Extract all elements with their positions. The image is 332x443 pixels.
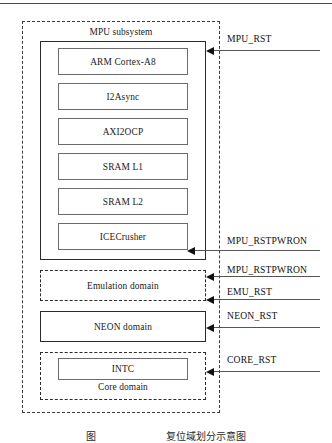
signal-arrowhead-neon-rst xyxy=(206,324,214,332)
module-sram-l1: SRAM L1 xyxy=(58,153,188,180)
signal-line-core-rst xyxy=(213,371,320,372)
signal-label-mpu-rstpwron-icecrusher: MPU_RSTPWRON xyxy=(227,235,307,246)
signal-label-neon-rst: NEON_RST xyxy=(227,310,278,321)
signal-arrowhead-core-rst xyxy=(206,368,214,376)
page-top-rule xyxy=(0,3,332,4)
neon-domain-label: NEON domain xyxy=(94,322,152,332)
module-axi2ocp: AXI2OCP xyxy=(58,118,188,145)
module-label: I2Async xyxy=(107,92,140,102)
signal-line-emu-rst xyxy=(213,299,320,300)
signal-label-mpu-rstpwron-emulation: MPU_RSTPWRON xyxy=(227,264,307,275)
signal-line-mpu-rst xyxy=(213,50,320,51)
emulation-domain-label: Emulation domain xyxy=(87,281,159,291)
module-label: INTC xyxy=(112,364,134,374)
mpu-subsystem-title: MPU subsystem xyxy=(22,28,220,37)
signal-line-mpu-rstpwron-icecrusher xyxy=(195,250,320,251)
module-icecrusher: ICECrusher xyxy=(58,223,188,250)
emulation-domain-box: Emulation domain xyxy=(40,270,206,301)
signal-arrowhead-mpu-rst xyxy=(206,47,214,55)
module-sram-l2: SRAM L2 xyxy=(58,188,188,215)
signal-label-emu-rst: EMU_RST xyxy=(227,286,272,297)
signal-arrowhead-emu-rst xyxy=(206,296,214,304)
module-label: SRAM L2 xyxy=(103,197,143,207)
signal-line-mpu-rstpwron-emulation xyxy=(213,276,320,277)
figure-caption: 图 复位域划分示意图 xyxy=(0,428,332,443)
core-domain-label: Core domain xyxy=(40,383,206,392)
module-arm-cortex-a8: ARM Cortex-A8 xyxy=(58,48,188,75)
module-i2async: I2Async xyxy=(58,83,188,110)
signal-arrowhead-mpu-rstpwron-icecrusher xyxy=(187,247,195,255)
module-label: ICECrusher xyxy=(100,232,146,242)
signal-label-mpu-rst: MPU_RST xyxy=(227,33,272,44)
neon-domain-box: NEON domain xyxy=(40,311,206,342)
signal-line-neon-rst xyxy=(213,327,320,328)
module-label: AXI2OCP xyxy=(103,127,144,137)
module-intc: INTC xyxy=(58,358,188,380)
module-label: SRAM L1 xyxy=(103,162,143,172)
module-label: ARM Cortex-A8 xyxy=(90,57,156,67)
signal-label-core-rst: CORE_RST xyxy=(227,354,277,365)
signal-arrowhead-mpu-rstpwron-emulation xyxy=(206,273,214,281)
